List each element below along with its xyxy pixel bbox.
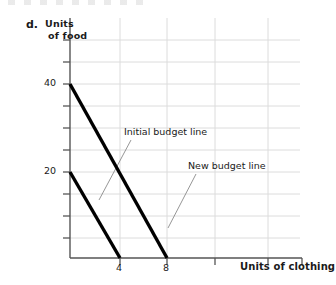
y-tick-label-40: 40 [44,77,56,88]
new-budget-line [70,172,120,258]
x-tick-label-8: 8 [163,262,169,273]
chart-canvas [0,0,336,285]
part-letter: d. [26,18,38,31]
annotation-new-budget-line: New budget line [188,160,266,171]
y-tick-label-20: 20 [44,165,56,176]
y-axis-title-line1: Units [45,18,74,29]
vertical-gridlines [120,18,268,258]
figure-panel: d. Units of food 40 20 4 8 Units of clot… [0,0,336,285]
y-axis-title-line2: of food [48,30,87,41]
annotation-initial-budget-line: Initial budget line [124,126,207,137]
initial-budget-line [70,84,167,258]
leader-line-initial [99,140,131,200]
horizontal-gridlines [70,40,300,238]
leader-line-new [168,174,196,228]
y-axis-ticks [63,40,70,238]
x-axis-title: Units of clothing [240,261,335,272]
x-tick-label-4: 4 [116,262,122,273]
